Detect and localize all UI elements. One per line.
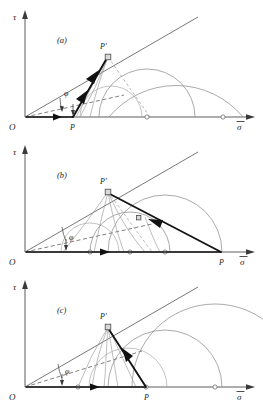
origin-label-a: O	[9, 122, 16, 132]
mohr-circle-mid-a	[99, 69, 195, 117]
failure-envelope-c	[25, 287, 198, 387]
mohr-circle-large-c	[132, 304, 263, 387]
p-prime-label-b: P'	[99, 177, 107, 186]
sigma-axis-label-a: σ	[237, 122, 242, 132]
p-label-a: P	[69, 123, 75, 132]
circle-center-marker-c-2	[213, 385, 217, 389]
panel-label-b: (b)	[57, 170, 67, 180]
tau-axis-b	[22, 145, 28, 252]
tau-axis-c	[22, 280, 28, 387]
mohr-circle-large-a	[109, 85, 243, 117]
construction-chord-b-2	[94, 192, 108, 252]
panel-label-a: (a)	[57, 35, 67, 45]
failure-envelope-b	[25, 152, 198, 252]
origin-label-c: O	[9, 392, 16, 402]
stress-path-b-segment-2	[108, 193, 221, 252]
panel-label-c: (c)	[57, 305, 67, 315]
mohr-circle-figure: τ σ O (a) P P' φ	[0, 0, 263, 405]
p-prime-node-a	[105, 54, 111, 60]
stress-path-arrow-c-1	[90, 384, 100, 391]
phi-label-c: φ	[65, 367, 70, 376]
path-node-b	[137, 216, 141, 220]
tau-axis-label-b: τ	[13, 147, 17, 157]
p-label-b: P	[218, 258, 224, 267]
panel-a: τ σ O (a) P P' φ	[0, 0, 263, 135]
stress-path-arrow-b-1	[100, 249, 110, 256]
sigma-axis-label-c: σ	[237, 392, 242, 402]
origin-label-b: O	[9, 257, 16, 267]
dashed-radius-line-b	[25, 224, 152, 252]
p-prime-node-c	[105, 324, 111, 330]
circle-center-marker-a-2	[221, 115, 225, 119]
phi-tick-head-c	[60, 380, 64, 386]
construction-chord-b-1	[63, 192, 108, 252]
p-prime-label-a: P'	[99, 42, 107, 51]
panel-b: τ σ O (b) P P' φ	[0, 135, 263, 270]
tau-axis-label-a: τ	[13, 12, 17, 22]
tau-axis-label-c: τ	[13, 282, 17, 292]
circle-center-marker-a-1	[145, 115, 149, 119]
dashed-center-line-a	[108, 57, 150, 117]
p-prime-node-b	[105, 189, 111, 195]
panel-c: τ σ O (c) P P' φ	[0, 270, 263, 405]
p-prime-label-c: P'	[99, 312, 107, 321]
tau-axis-a	[22, 10, 28, 117]
construction-chord-c-2	[92, 327, 108, 387]
phi-label-a: φ	[64, 89, 69, 98]
failure-envelope-a	[25, 17, 198, 117]
sigma-axis-label-b: σ	[240, 257, 245, 267]
construction-chord-a-3	[90, 57, 108, 117]
stress-path-arrow-a-1	[53, 114, 62, 121]
phi-label-b: φ	[69, 233, 74, 242]
p-label-c: P	[143, 393, 149, 402]
